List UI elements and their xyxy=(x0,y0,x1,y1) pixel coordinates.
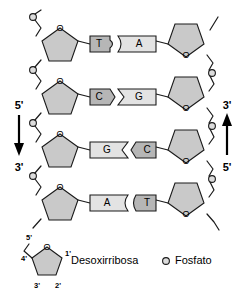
backbone-bond xyxy=(35,179,41,195)
right-strand-direction-arrow: 3' 5' xyxy=(222,99,232,173)
phosphate-circle xyxy=(30,67,37,74)
deoxyribose-sugar: O xyxy=(42,129,90,167)
base-letter: T xyxy=(144,197,150,208)
backbone-bond xyxy=(35,126,41,142)
deoxyribose-sugar: O xyxy=(156,77,204,113)
left-backbone xyxy=(30,10,41,228)
dna-diagram: O O O O O O xyxy=(0,0,245,295)
deoxyribose-sugar: O xyxy=(156,183,204,219)
oxygen-label: O xyxy=(182,103,189,113)
left-terminus-bond xyxy=(33,219,41,228)
backbone-bond xyxy=(35,73,41,89)
base-letter: A xyxy=(136,38,143,49)
right-strand-top-label: 3' xyxy=(223,99,232,111)
legend-phosphate: Fosfato xyxy=(163,254,212,266)
glycosidic-bond xyxy=(156,200,168,203)
base-pair-row: G C xyxy=(90,142,156,158)
backbone-bond xyxy=(35,20,41,36)
oxygen-label: O xyxy=(182,209,189,219)
carbon-label-3prime: 3' xyxy=(34,281,40,290)
deoxyribose-sugar: O xyxy=(156,24,204,60)
backbone-bond xyxy=(35,113,41,120)
base-letter: G xyxy=(135,91,143,102)
oxygen-label: O xyxy=(182,156,189,166)
legend-phosphate-label: Fosfato xyxy=(175,254,212,266)
phosphate-circle xyxy=(163,258,170,265)
phosphate-circle xyxy=(209,176,216,183)
base-letter: G xyxy=(103,144,111,155)
left-strand-direction-arrow: 5' 3' xyxy=(14,99,24,173)
phosphate-circle xyxy=(209,123,216,130)
phosphate-circle xyxy=(30,14,37,21)
backbone-bond xyxy=(207,108,213,123)
right-sugar-group: O O O O xyxy=(156,24,204,219)
backbone-bond xyxy=(35,166,41,173)
carbon-label-2prime: 2' xyxy=(55,281,61,290)
left-terminus-bond xyxy=(35,10,41,14)
base-letter: T xyxy=(96,38,102,49)
glycosidic-bond xyxy=(156,94,168,97)
oxygen-label: O xyxy=(56,182,63,192)
phosphate-circle xyxy=(30,120,37,127)
deoxyribose-sugar: O xyxy=(156,130,204,166)
glycosidic-bond xyxy=(78,41,90,44)
backbone-bond xyxy=(35,60,41,67)
glycosidic-bond xyxy=(156,147,168,150)
right-backbone xyxy=(207,17,219,230)
phosphate-circle xyxy=(209,70,216,77)
deoxyribose-sugar: O xyxy=(42,23,90,61)
carbon-label-4prime: 4' xyxy=(21,254,27,263)
right-terminus-bond xyxy=(207,214,219,230)
backbone-bond xyxy=(209,129,214,144)
arrow-head-down xyxy=(14,143,24,156)
phosphate-circle xyxy=(30,173,37,180)
dna-structure-svg: O O O O O O xyxy=(0,0,245,295)
base-letter: C xyxy=(143,144,150,155)
carbon-label-5prime: 5' xyxy=(26,233,32,242)
backbone-bond xyxy=(207,161,213,176)
glycosidic-bond xyxy=(78,200,90,203)
base-pair-row: T A xyxy=(90,36,156,52)
glycosidic-bond xyxy=(156,41,168,44)
backbone-bond xyxy=(209,76,214,91)
legend-deoxyribose-label: Desoxirribosa xyxy=(71,254,139,266)
glycosidic-bond xyxy=(78,147,90,150)
base-letter: A xyxy=(104,197,111,208)
right-terminus-bond xyxy=(210,17,218,30)
oxygen-label: O xyxy=(56,23,63,33)
base-pair-row: A T xyxy=(90,195,156,211)
left-strand-bottom-label: 3' xyxy=(15,161,24,173)
oxygen-label: O xyxy=(56,76,63,86)
backbone-bond xyxy=(209,182,214,197)
left-sugar-group: O O O O xyxy=(42,23,90,220)
backbone-bond xyxy=(207,55,213,70)
oxygen-label: O xyxy=(182,50,189,60)
deoxyribose-sugar: O xyxy=(42,182,90,220)
base-letter: C xyxy=(95,91,102,102)
oxygen-label: O xyxy=(43,242,50,252)
legend-deoxyribose: O 5' 4' 3' 2' 1' Desoxirribosa xyxy=(21,233,139,290)
right-strand-bottom-label: 5' xyxy=(223,161,232,173)
glycosidic-bond xyxy=(78,94,90,97)
oxygen-label: O xyxy=(56,129,63,139)
base-pair-row: C G xyxy=(90,89,156,105)
deoxyribose-sugar: O xyxy=(42,76,90,114)
left-strand-top-label: 5' xyxy=(15,99,24,111)
